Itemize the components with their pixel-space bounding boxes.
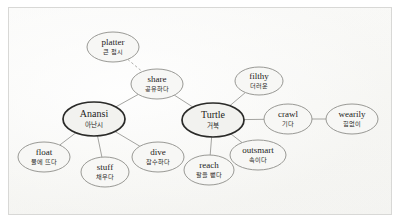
node-share[interactable]: share공유하다	[131, 69, 183, 99]
node-label-en-outsmart: outsmart	[242, 145, 274, 155]
edge-turtle-filthy	[230, 93, 246, 106]
node-label-en-turtle: Turtle	[201, 109, 226, 120]
node-label-ko-stuff: 채우다	[96, 173, 114, 181]
edge-platter-share	[128, 59, 143, 71]
node-turtle[interactable]: Turtle거북	[182, 103, 244, 137]
edge-share-anansi	[116, 94, 138, 107]
node-reach[interactable]: reach팔을 뻗다	[184, 155, 234, 185]
node-label-ko-share: 공유하다	[145, 85, 169, 93]
edge-share-turtle	[174, 95, 193, 107]
node-layer: platter큰 접시share공유하다filthy더러운Anansi아난시Tu…	[18, 32, 378, 187]
node-crawl[interactable]: crawl기다	[264, 104, 312, 134]
edge-turtle-outsmart	[231, 134, 242, 143]
node-label-ko-filthy: 더러운	[250, 82, 268, 90]
node-filthy[interactable]: filthy더러운	[235, 67, 283, 95]
node-label-en-dive: dive	[150, 147, 166, 157]
node-label-en-filthy: filthy	[249, 71, 269, 81]
diagram-canvas: platter큰 접시share공유하다filthy더러운Anansi아난시Tu…	[0, 0, 400, 223]
node-label-ko-wearily: 힘없이	[343, 120, 361, 128]
node-stuff[interactable]: stuff채우다	[81, 157, 129, 187]
node-label-en-wearily: wearily	[339, 109, 366, 119]
node-label-ko-float: 물에 뜨다	[31, 158, 57, 166]
node-label-ko-platter: 큰 접시	[103, 48, 123, 55]
word-map-graph: platter큰 접시share공유하다filthy더러운Anansi아난시Tu…	[0, 0, 400, 223]
node-label-en-anansi: Anansi	[80, 108, 109, 119]
node-label-en-stuff: stuff	[97, 162, 113, 172]
node-label-ko-outsmart: 속이다	[249, 156, 267, 164]
node-label-ko-reach: 팔을 뻗다	[196, 171, 222, 179]
node-anansi[interactable]: Anansi아난시	[63, 102, 125, 136]
node-label-ko-turtle: 거북	[207, 121, 219, 130]
edge-turtle-reach	[210, 137, 211, 155]
node-dive[interactable]: dive잠수하다	[132, 142, 184, 172]
node-label-ko-anansi: 아난시	[85, 120, 103, 129]
node-wearily[interactable]: wearily힘없이	[326, 104, 378, 134]
node-label-ko-crawl: 기다	[282, 120, 294, 128]
node-label-en-float: float	[36, 147, 53, 157]
node-label-en-reach: reach	[199, 160, 219, 170]
node-label-ko-dive: 잠수하다	[146, 158, 170, 166]
node-float[interactable]: float물에 뜨다	[18, 142, 70, 172]
node-label-en-crawl: crawl	[278, 109, 298, 119]
edge-anansi-float	[60, 133, 76, 145]
edge-anansi-stuff	[98, 136, 102, 157]
edge-anansi-dive	[115, 131, 140, 146]
node-outsmart[interactable]: outsmart속이다	[230, 140, 286, 170]
node-label-en-platter: platter	[102, 37, 125, 47]
node-label-en-share: share	[148, 74, 167, 84]
node-platter[interactable]: platter큰 접시	[87, 32, 139, 62]
